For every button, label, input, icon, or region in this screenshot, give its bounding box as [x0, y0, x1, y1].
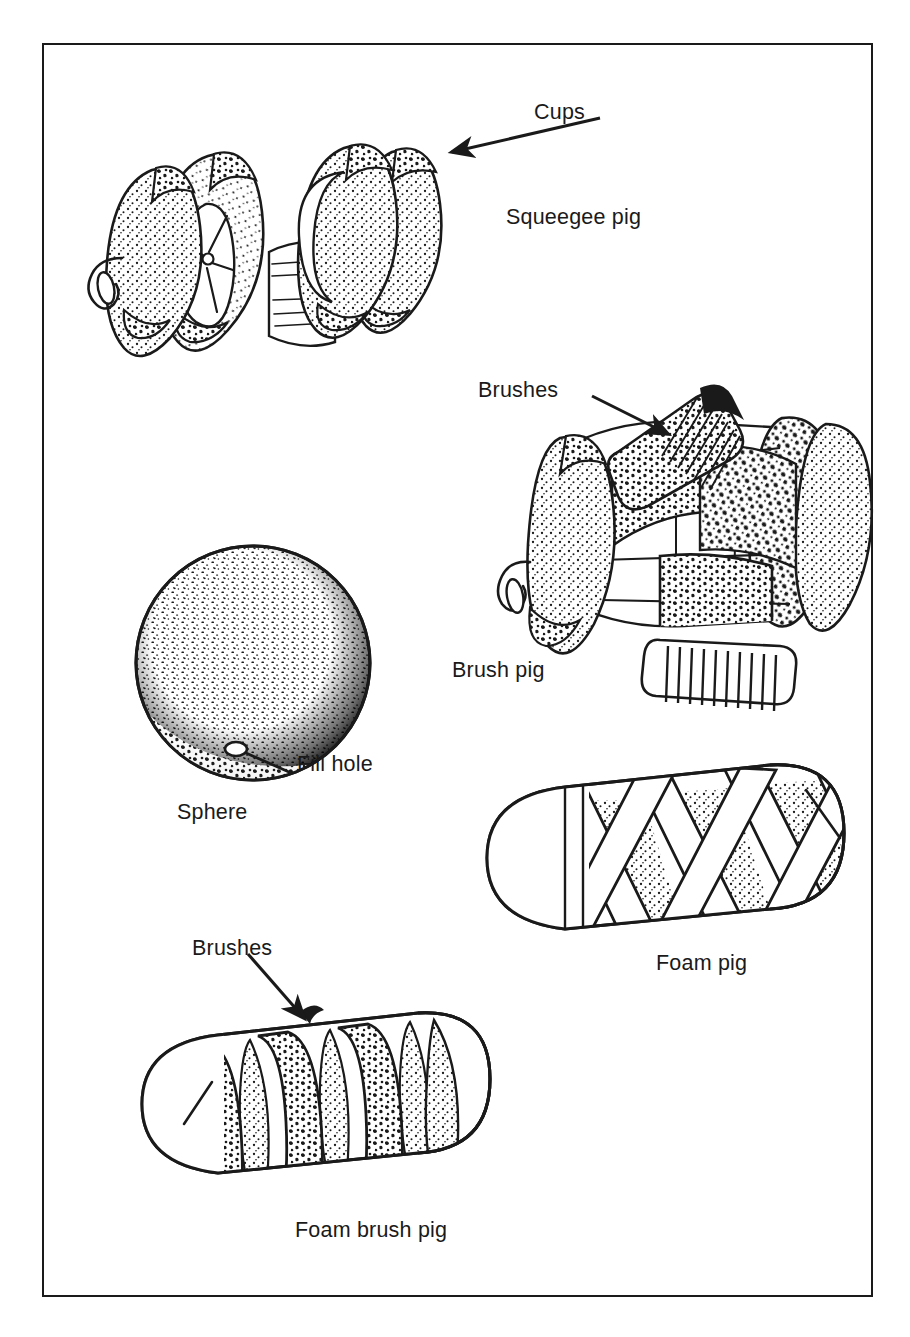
sphere-fill-hole — [225, 742, 247, 756]
brush-pig-front-cup — [498, 435, 615, 653]
brush-pig-towing-eye — [498, 562, 530, 614]
caption-brush-pig: Brush pig — [452, 658, 545, 683]
callout-fill-hole: Fill hole — [297, 752, 373, 777]
brushes-bottom-arrow — [248, 954, 304, 1018]
foam-pig-drawing — [487, 760, 910, 954]
caption-foam-pig: Foam pig — [656, 951, 747, 976]
brush-pig-bottom-brush — [642, 640, 796, 711]
caption-squeegee-pig: Squeegee pig — [506, 205, 641, 230]
figure-plate: Cups Squeegee pig Brushes Brush pig Fill… — [0, 0, 910, 1337]
foam-brush-pig-drawing — [142, 1005, 490, 1250]
callout-brushes-bottom: Brushes — [192, 936, 272, 961]
callout-brushes-top: Brushes — [478, 378, 558, 403]
caption-foam-brush-pig: Foam brush pig — [295, 1218, 447, 1243]
brush-pig-drawing — [498, 384, 872, 711]
squeegee-pig-drawing — [88, 144, 441, 356]
caption-sphere: Sphere — [177, 800, 248, 825]
callout-cups: Cups — [534, 100, 585, 125]
